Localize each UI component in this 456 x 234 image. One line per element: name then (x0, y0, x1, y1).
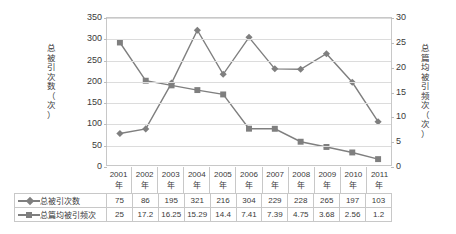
data-point-总篇均被引频次-2006年 (246, 126, 252, 132)
x-axis-category-2001年: 2001年 (106, 167, 131, 193)
left-axis-title-char: ） (44, 111, 58, 121)
right-axis-tickmark (391, 93, 394, 94)
table-cell-总被引次数-2010年: 197 (339, 194, 365, 207)
left-tick-label: 50 (76, 140, 102, 150)
x-axis-category-2005年: 2005年 (209, 167, 235, 193)
x-axis-category-2004年: 2004年 (183, 167, 209, 193)
legend-entry-总篇均被引频次: 总篇均被引频次 (15, 208, 107, 221)
chart-figure: 总被引次数（次） 总篇均被引频次（次） 05010015020025030035… (0, 0, 456, 234)
table-cell-总被引次数-2004年: 321 (184, 194, 210, 207)
table-cell-总被引次数-2006年: 304 (236, 194, 262, 207)
left-axis-tickmark (104, 82, 107, 83)
data-point-总篇均被引频次-2001年 (117, 40, 123, 46)
x-axis-category-2009年: 2009年 (314, 167, 340, 193)
right-tick-label: 20 (396, 62, 422, 72)
gridline (107, 124, 391, 125)
table-cell-总篇均被引频次-2008年: 4.75 (287, 208, 313, 221)
left-axis-tickmark (104, 61, 107, 62)
left-tick-label: 200 (76, 76, 102, 86)
right-axis-tickmark (391, 43, 394, 44)
data-point-总篇均被引频次-2011年 (375, 156, 381, 162)
left-tick-label: 250 (76, 55, 102, 65)
right-tick-label: 5 (396, 136, 422, 146)
data-point-总篇均被引频次-2008年 (298, 139, 304, 145)
table-cell-总篇均被引频次-2001年: 25 (107, 208, 132, 221)
table-cell-总被引次数-2008年: 228 (287, 194, 313, 207)
x-axis-category-2002年: 2002年 (131, 167, 157, 193)
data-point-总被引次数-2001年 (116, 130, 123, 137)
x-axis-category-2010年: 2010年 (340, 167, 366, 193)
legend-label: 总被引次数 (40, 195, 80, 206)
right-tick-label: 30 (396, 12, 422, 22)
left-axis-tickmark (104, 124, 107, 125)
left-axis-tickmark (104, 146, 107, 147)
table-cell-总被引次数-2005年: 216 (210, 194, 236, 207)
data-point-总篇均被引频次-2003年 (169, 82, 175, 88)
right-axis-tickmark (391, 117, 394, 118)
data-point-总被引次数-2008年 (297, 66, 304, 73)
left-axis-tickmark (104, 103, 107, 104)
gridline (107, 82, 391, 83)
left-tick-label: 100 (76, 118, 102, 128)
table-cell-总篇均被引频次-2003年: 16.25 (158, 208, 184, 221)
gridline (107, 18, 391, 19)
x-axis-category-2011年: 2011年 (366, 167, 392, 193)
table-cell-总被引次数-2009年: 265 (313, 194, 339, 207)
gridline (107, 39, 391, 40)
x-axis-category-2003年: 2003年 (157, 167, 183, 193)
left-tick-label: 300 (76, 33, 102, 43)
table-cell-总篇均被引频次-2007年: 7.39 (261, 208, 287, 221)
table-cell-总被引次数-2007年: 229 (261, 194, 287, 207)
left-tick-label: 0 (76, 161, 102, 171)
right-axis-tickmark (391, 142, 394, 143)
data-point-总篇均被引频次-2004年 (194, 87, 200, 93)
gridline (107, 61, 391, 62)
right-tick-label: 10 (396, 111, 422, 121)
table-cell-总篇均被引频次-2010年: 2.56 (339, 208, 365, 221)
right-axis-tickmark (391, 68, 394, 69)
table-cell-总篇均被引频次-2006年: 7.41 (236, 208, 262, 221)
legend-label: 总篇均被引频次 (40, 209, 96, 220)
right-tick-label: 15 (396, 87, 422, 97)
left-tick-label: 350 (76, 12, 102, 22)
legend-square-marker-icon (18, 210, 40, 220)
table-cell-总篇均被引频次-2009年: 3.68 (313, 208, 339, 221)
x-axis-category-2008年: 2008年 (288, 167, 314, 193)
table-cell-总篇均被引频次-2011年: 1.2 (365, 208, 391, 221)
table-row: 总篇均被引频次2517.216.2515.2914.47.417.394.753… (15, 207, 391, 221)
right-tick-label: 25 (396, 37, 422, 47)
x-axis-category-2007年: 2007年 (262, 167, 288, 193)
data-point-总篇均被引频次-2010年 (349, 150, 355, 156)
table-cell-总被引次数-2002年: 86 (132, 194, 158, 207)
table-row: 总被引次数7586195321216304229228265197103 (15, 193, 391, 207)
plot-area (106, 17, 392, 166)
data-point-总被引次数-2002年 (142, 125, 149, 132)
right-axis-tickmark (391, 18, 394, 19)
left-axis-tickmark (104, 39, 107, 40)
legend-diamond-marker-icon (18, 196, 40, 206)
table-cell-总篇均被引频次-2002年: 17.2 (132, 208, 158, 221)
left-tick-label: 150 (76, 97, 102, 107)
left-axis-title: 总被引次数（次） (44, 44, 58, 120)
table-cell-总被引次数-2003年: 195 (158, 194, 184, 207)
data-point-总篇均被引频次-2007年 (272, 126, 278, 132)
table-cell-总被引次数-2011年: 103 (365, 194, 391, 207)
data-point-总篇均被引频次-2005年 (220, 91, 226, 97)
left-axis-tickmark (104, 18, 107, 19)
table-cell-总篇均被引频次-2004年: 15.29 (184, 208, 210, 221)
table-cell-总被引次数-2001年: 75 (107, 194, 132, 207)
gridline (107, 103, 391, 104)
x-axis-category-labels: 2001年2002年2003年2004年2005年2006年2007年2008年… (106, 167, 392, 193)
gridline (107, 146, 391, 147)
chart-data-table: 总被引次数7586195321216304229228265197103总篇均被… (14, 193, 392, 222)
x-axis-category-2006年: 2006年 (235, 167, 261, 193)
right-tick-label: 0 (396, 161, 422, 171)
table-cell-总篇均被引频次-2005年: 14.4 (210, 208, 236, 221)
data-point-总被引次数-2004年 (194, 27, 201, 34)
legend-entry-总被引次数: 总被引次数 (15, 194, 107, 207)
